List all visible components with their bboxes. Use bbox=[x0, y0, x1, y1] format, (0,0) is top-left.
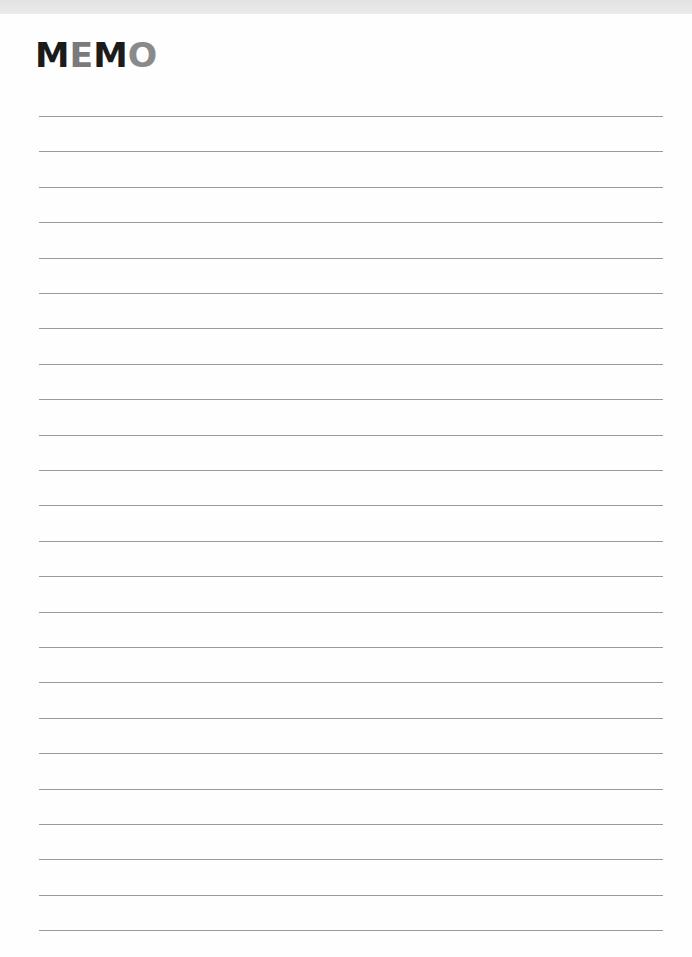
ruled-line bbox=[39, 612, 663, 613]
ruled-line bbox=[39, 258, 663, 259]
ruled-line bbox=[39, 187, 663, 188]
ruled-line bbox=[39, 435, 663, 436]
ruled-line bbox=[39, 930, 663, 931]
ruled-line bbox=[39, 328, 663, 329]
ruled-line bbox=[39, 895, 663, 896]
ruled-line bbox=[39, 647, 663, 648]
ruled-line bbox=[39, 293, 663, 294]
ruled-line bbox=[39, 151, 663, 152]
ruled-line bbox=[39, 399, 663, 400]
ruled-line bbox=[39, 682, 663, 683]
ruled-line bbox=[39, 222, 663, 223]
ruled-line bbox=[39, 505, 663, 506]
ruled-line bbox=[39, 470, 663, 471]
ruled-line bbox=[39, 541, 663, 542]
ruled-line bbox=[39, 718, 663, 719]
ruled-line bbox=[39, 859, 663, 860]
ruled-line bbox=[39, 364, 663, 365]
ruled-line bbox=[39, 824, 663, 825]
ruled-line bbox=[39, 576, 663, 577]
ruled-line bbox=[39, 753, 663, 754]
ruled-lines bbox=[39, 0, 663, 957]
ruled-line bbox=[39, 116, 663, 117]
ruled-line bbox=[39, 789, 663, 790]
